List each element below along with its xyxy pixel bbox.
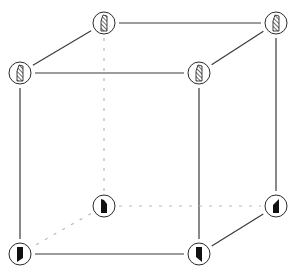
node-back-bottom-right xyxy=(265,195,287,217)
edge-back-top-left-to-front-top-left xyxy=(33,31,91,66)
edge-back-top-right-to-front-top-right xyxy=(212,31,264,65)
cube-diagram xyxy=(0,0,300,274)
hatched-glyph-icon xyxy=(273,15,279,31)
nodes-layer xyxy=(9,12,287,265)
node-front-top-left xyxy=(9,62,31,84)
node-front-top-right xyxy=(188,62,210,84)
hatched-glyph-icon xyxy=(101,15,107,31)
edges-layer xyxy=(20,23,276,254)
node-front-bottom-left xyxy=(9,243,31,265)
node-back-top-left xyxy=(93,12,115,34)
node-back-top-right xyxy=(265,12,287,34)
hatched-glyph-icon xyxy=(17,65,23,81)
edge-front-bottom-right-to-back-bottom-right xyxy=(212,214,264,246)
cube-diagram-canvas xyxy=(0,0,300,274)
node-front-bottom-right xyxy=(188,243,210,265)
node-back-bottom-left xyxy=(93,195,115,217)
hatched-glyph-icon xyxy=(196,65,202,81)
edge-back-bottom-left-to-front-bottom-left xyxy=(33,213,91,246)
